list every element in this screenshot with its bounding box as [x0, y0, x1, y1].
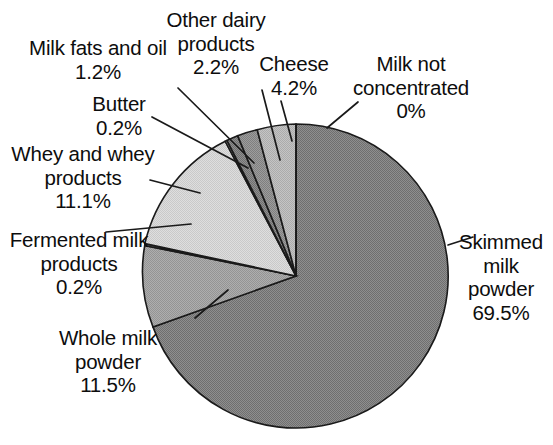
label-skimmed-milk-powder-line3: powder — [468, 277, 534, 300]
label-butter: Butter0.2% — [64, 92, 174, 139]
label-whole-milk-powder-line1: Whole milk — [59, 326, 157, 349]
label-cheese: Cheese4.2% — [252, 52, 336, 99]
label-milk-not-concentrated: Milk notconcentrated0% — [336, 52, 486, 123]
label-whey-and-whey-products-line2: products — [44, 166, 121, 189]
pie-chart: Other dairyproducts2.2% Milk fats and oi… — [0, 0, 553, 445]
label-whey-and-whey-products: Whey and wheyproducts11.1% — [8, 142, 158, 213]
label-whole-milk-powder: Whole milkpowder11.5% — [44, 326, 172, 397]
label-fermented-milk-products-line2: products — [40, 252, 117, 275]
label-milk-fats-and-oil-value: 1.2% — [75, 60, 121, 83]
label-milk-fats-and-oil-line1: Milk fats and oil — [29, 36, 167, 59]
label-milk-not-concentrated-value: 0% — [396, 99, 425, 122]
label-milk-not-concentrated-line1: Milk not — [376, 52, 445, 75]
label-skimmed-milk-powder: Skimmedmilkpowder69.5% — [452, 230, 550, 324]
label-cheese-line1: Cheese — [259, 52, 328, 75]
label-milk-fats-and-oil: Milk fats and oil1.2% — [18, 36, 178, 83]
label-whole-milk-powder-line2: powder — [75, 350, 141, 373]
label-whole-milk-powder-value: 11.5% — [80, 373, 136, 396]
label-fermented-milk-products-value: 0.2% — [56, 275, 102, 298]
label-fermented-milk-products-line1: Fermented milk — [10, 228, 148, 251]
label-whey-and-whey-products-value: 11.1% — [55, 189, 111, 212]
label-other-dairy-products-line1: Other dairy — [166, 8, 265, 31]
label-butter-value: 0.2% — [96, 116, 142, 139]
label-fermented-milk-products: Fermented milkproducts0.2% — [0, 228, 158, 299]
label-other-dairy-products-value: 2.2% — [193, 55, 239, 78]
pie-slices — [143, 124, 449, 428]
label-skimmed-milk-powder-line1: Skimmed — [459, 230, 543, 253]
label-milk-not-concentrated-line2: concentrated — [353, 76, 469, 99]
label-whey-and-whey-products-line1: Whey and whey — [11, 142, 154, 165]
label-other-dairy-products-line2: products — [177, 32, 254, 55]
label-skimmed-milk-powder-line2: milk — [483, 254, 519, 277]
label-butter-line1: Butter — [92, 92, 146, 115]
label-cheese-value: 4.2% — [271, 76, 317, 99]
label-skimmed-milk-powder-value: 69.5% — [472, 301, 529, 324]
